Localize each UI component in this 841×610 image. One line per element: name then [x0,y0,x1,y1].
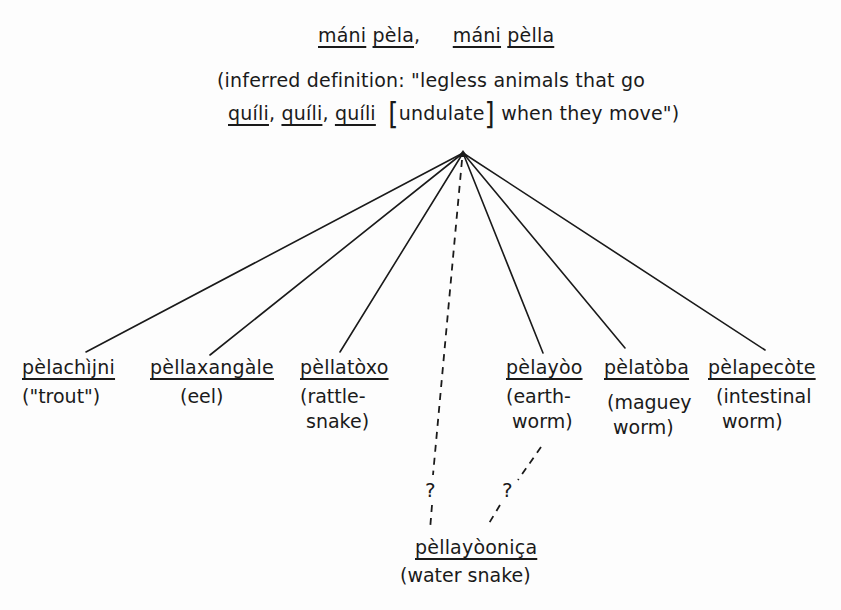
question-mark-right: ? [502,480,513,500]
root-terms: máni pèla, máni pèlla [318,26,554,45]
child-gloss-maguey-worm: (maguey worm) [607,390,692,440]
dashed-branch-from-earthworm-lower [488,505,500,525]
branch-pelapecote [463,153,765,350]
child-term-pellayoonica: pèllayòoniça [415,538,537,557]
child-gloss-rattlesnake: (rattle- snake) [300,384,369,434]
definition-line-2: quíli, quíli, quíli [undulate] when they… [228,101,679,127]
child-term-pellaxangale: pèllaxangàle [150,358,274,377]
definition-quili-1: quíli [228,102,269,124]
dashed-branch-from-earthworm [518,447,541,480]
definition-comma: , [322,102,328,124]
definition-line-1: (inferred definition: "legless animals t… [217,71,645,90]
definition-comma: , [269,102,275,124]
child-gloss-earthworm: (earth- worm) [506,384,573,434]
tree-branches [0,0,841,610]
branch-pellatoxo [340,153,463,352]
child-term-pelatoba: pèlatòba [604,358,689,377]
root-separator: , [414,24,420,46]
bracket-close: ] [485,99,495,129]
child-term-pellatoxo: pèllatòxo [300,358,389,377]
child-gloss-intestinal-worm: (intestinal worm) [716,384,811,434]
child-term-pelapecote: pèlapecòte [708,358,816,377]
dashed-branch-to-water-snake [433,160,462,475]
root-term-2b: pèlla [507,24,554,46]
definition-quili-2: quíli [281,102,322,124]
root-term-1a: máni [318,24,366,46]
bracket-open: [ [388,99,398,129]
root-term-2a: máni [453,24,501,46]
definition-quili-3: quíli [335,102,376,124]
dashed-branch-below-question [430,505,432,530]
bracket-word: undulate [399,102,485,124]
apex-node [458,150,468,157]
taxonomy-diagram: máni pèla, máni pèlla (inferred definiti… [0,0,841,610]
branch-pelayoo [463,153,543,353]
child-gloss-water-snake: (water snake) [400,563,531,588]
root-term-1b: pèla [373,24,414,46]
question-mark-left: ? [425,480,436,500]
branch-pelatoba [463,153,625,348]
branch-pellaxangale [210,153,463,355]
branch-pelachijni [86,153,463,352]
child-gloss-eel: (eel) [180,384,223,409]
definition-tail: when they move") [501,102,679,124]
child-term-pelachijni: pèlachìjni [22,358,115,377]
child-term-pelayoo: pèlayòo [506,358,583,377]
child-gloss-trout: ("trout") [22,384,100,409]
